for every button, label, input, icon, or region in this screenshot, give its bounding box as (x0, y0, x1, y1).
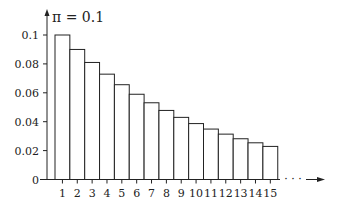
x-tick-label: 15 (263, 187, 277, 200)
x-ticks: 123456789101112131415 (59, 180, 277, 201)
x-tick-label: 5 (118, 187, 125, 200)
y-tick-label: 0.04 (15, 116, 40, 129)
bars (55, 35, 278, 180)
x-tick-label: 9 (178, 187, 185, 200)
y-ticks: 00.020.040.060.080.1 (15, 29, 48, 187)
x-tick-label: 7 (148, 187, 155, 200)
x-tick-label: 11 (204, 187, 218, 200)
bar-8 (159, 110, 174, 179)
bar-15 (263, 146, 278, 179)
chart-title: π = 0.1 (52, 9, 104, 25)
bar-7 (144, 103, 159, 180)
bar-2 (70, 49, 85, 179)
y-tick-label: 0.1 (22, 29, 40, 42)
y-tick-label: 0 (32, 174, 39, 187)
bar-3 (85, 62, 100, 179)
x-tick-label: 14 (248, 187, 262, 200)
x-tick-label: 3 (89, 187, 96, 200)
bar-1 (55, 35, 70, 180)
y-axis-arrow-icon (45, 9, 50, 16)
bar-10 (189, 124, 204, 180)
x-axis-arrow-icon (317, 177, 325, 182)
bar-12 (218, 134, 233, 179)
x-tick-label: 8 (163, 187, 170, 200)
x-tick-label: 1 (59, 187, 66, 200)
y-tick-label: 0.02 (15, 145, 40, 158)
x-tick-label: 12 (219, 187, 233, 200)
x-axis-ellipsis: · · · (284, 173, 301, 186)
x-tick-label: 6 (133, 187, 140, 200)
bar-chart: · · · 00.020.040.060.080.1 1234567891011… (0, 0, 339, 212)
x-tick-label: 2 (74, 187, 81, 200)
bar-5 (114, 85, 129, 180)
bar-6 (129, 94, 144, 179)
bar-13 (233, 139, 248, 180)
bar-9 (174, 117, 189, 179)
y-tick-label: 0.08 (15, 58, 40, 71)
x-tick-label: 10 (189, 187, 203, 200)
y-tick-label: 0.06 (15, 87, 40, 100)
bar-11 (204, 129, 219, 179)
x-tick-label: 13 (234, 187, 248, 200)
bar-4 (100, 74, 115, 179)
bar-14 (248, 143, 263, 180)
x-tick-label: 4 (103, 187, 110, 200)
